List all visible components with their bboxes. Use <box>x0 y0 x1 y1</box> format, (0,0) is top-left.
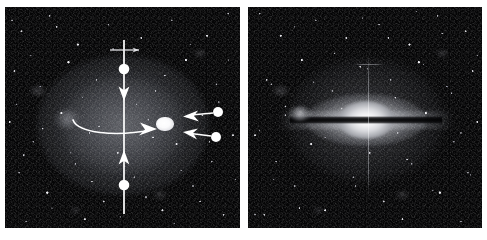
faint-companion-blob <box>54 109 80 129</box>
companion-source <box>288 106 312 121</box>
figure-container <box>0 0 487 240</box>
bright-compact-source <box>156 117 174 131</box>
short-exposure-panel <box>248 7 482 228</box>
spike-cross-tick <box>354 64 384 65</box>
deep-exposure-panel <box>5 7 240 228</box>
dust-lane <box>290 116 442 124</box>
vertical-diffraction-spike <box>368 53 369 197</box>
